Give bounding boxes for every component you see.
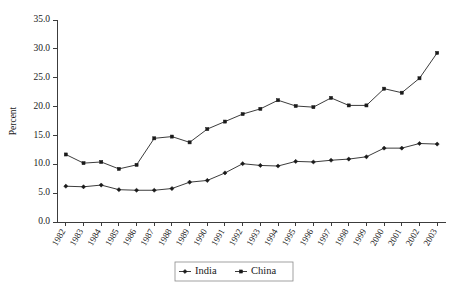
- x-axis-tick-label: 1985: [103, 227, 121, 248]
- data-point-marker: [259, 107, 262, 110]
- data-point-marker: [188, 141, 191, 144]
- y-axis-tick-label: 20.0: [33, 101, 50, 111]
- data-point-marker: [223, 171, 227, 175]
- data-point-marker: [241, 113, 244, 116]
- data-point-marker: [417, 141, 421, 145]
- data-point-marker: [64, 184, 68, 188]
- data-point-marker: [436, 51, 439, 54]
- data-point-marker: [152, 188, 156, 192]
- x-axis-tick-label: 1982: [50, 227, 68, 248]
- x-axis-tick-label: 1990: [191, 227, 209, 248]
- data-point-marker: [312, 106, 315, 109]
- data-point-marker: [347, 104, 350, 107]
- x-axis-tick-label: 1983: [68, 227, 86, 248]
- y-axis-title: Percent: [8, 106, 18, 135]
- data-point-marker: [258, 163, 262, 167]
- data-point-marker: [276, 164, 280, 168]
- x-axis-tick-label: 1993: [244, 227, 262, 248]
- data-point-marker: [205, 178, 209, 182]
- y-axis-tick-label: 10.0: [33, 158, 50, 168]
- x-axis-tick-label: 2001: [386, 227, 404, 248]
- data-point-marker: [276, 99, 279, 102]
- x-axis-tick-label: 1998: [333, 227, 351, 248]
- data-point-marker: [117, 188, 121, 192]
- data-point-marker: [294, 159, 298, 163]
- data-point-marker: [365, 104, 368, 107]
- x-axis-tick-label: 1989: [174, 227, 192, 248]
- x-axis-tick-label: 1992: [227, 227, 245, 248]
- series-india: [64, 141, 440, 192]
- x-axis-tick-label: 1997: [315, 227, 333, 248]
- data-point-marker: [241, 162, 245, 166]
- data-point-marker: [170, 186, 174, 190]
- chart-figure: 0.05.010.015.020.025.030.035.0Percent198…: [0, 0, 453, 294]
- data-point-marker: [117, 167, 120, 170]
- chart-legend: IndiaChina: [175, 262, 293, 281]
- data-point-marker: [294, 104, 297, 107]
- series-line-india: [66, 144, 437, 191]
- x-axis-tick-label: 1984: [85, 227, 103, 248]
- y-axis-tick-label: 15.0: [33, 130, 50, 140]
- data-point-marker: [188, 180, 192, 184]
- x-axis-tick-label: 1986: [121, 227, 139, 248]
- x-axis-tick-label: 1996: [297, 227, 315, 248]
- data-point-marker: [81, 185, 85, 189]
- x-axis-tick-label: 1991: [209, 227, 227, 248]
- data-point-marker: [64, 153, 67, 156]
- x-axis-tick-label: 2000: [368, 227, 386, 248]
- x-axis-tick-label: 1987: [138, 227, 156, 248]
- data-point-marker: [435, 142, 439, 146]
- x-axis-tick-label: 2002: [404, 227, 422, 248]
- x-axis-tick-label: 1999: [351, 227, 369, 248]
- data-point-marker: [239, 270, 242, 273]
- data-point-marker: [223, 120, 226, 123]
- data-point-marker: [330, 96, 333, 99]
- data-point-marker: [418, 77, 421, 80]
- data-point-marker: [329, 158, 333, 162]
- data-point-marker: [364, 155, 368, 159]
- y-axis-tick-label: 0.0: [38, 216, 50, 226]
- x-axis-tick-label: 1995: [280, 227, 298, 248]
- data-point-marker: [311, 160, 315, 164]
- data-point-marker: [170, 135, 173, 138]
- y-axis-tick-label: 35.0: [33, 14, 50, 24]
- data-point-marker: [206, 128, 209, 131]
- data-point-marker: [134, 188, 138, 192]
- data-point-marker: [383, 87, 386, 90]
- data-point-marker: [82, 162, 85, 165]
- series-line-china: [66, 53, 437, 169]
- line-chart: 0.05.010.015.020.025.030.035.0Percent198…: [0, 0, 453, 294]
- y-axis-tick-label: 25.0: [33, 72, 50, 82]
- data-point-marker: [400, 146, 404, 150]
- y-axis-tick-label: 30.0: [33, 43, 50, 53]
- x-axis-tick-label: 2003: [421, 227, 439, 248]
- data-point-marker: [400, 91, 403, 94]
- y-axis-tick-label: 5.0: [38, 187, 50, 197]
- series-china: [64, 51, 438, 170]
- x-axis-tick-label: 1994: [262, 227, 280, 248]
- legend-label-india: India: [195, 265, 217, 276]
- data-point-marker: [99, 183, 103, 187]
- data-point-marker: [135, 163, 138, 166]
- legend-label-china: China: [251, 265, 276, 276]
- x-axis-tick-label: 1988: [156, 227, 174, 248]
- data-point-marker: [382, 146, 386, 150]
- data-point-marker: [347, 157, 351, 161]
- data-point-marker: [153, 137, 156, 140]
- data-point-marker: [100, 160, 103, 163]
